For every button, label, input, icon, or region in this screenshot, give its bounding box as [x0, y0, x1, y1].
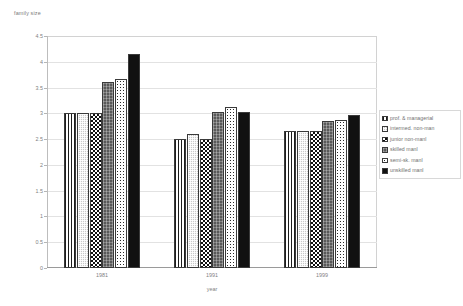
legend-item: junior non-manl — [382, 134, 458, 145]
bar-group — [157, 36, 267, 268]
legend-item-label: unskilled manl — [390, 168, 424, 173]
x-axis-tick-label: 1999 — [316, 272, 328, 278]
bar — [238, 112, 250, 268]
legend-item: prof. & managerial — [382, 113, 458, 124]
y-axis-tick-label: 4 — [40, 59, 43, 65]
bar-group — [267, 36, 377, 268]
x-axis-tick-labels: 198119911999 — [47, 272, 377, 282]
legend: prof. & managerialintermed. non-manjunio… — [379, 110, 461, 179]
bar — [77, 113, 89, 268]
y-axis-tick-label: 0.5 — [36, 239, 44, 245]
legend-item: unskilled manl — [382, 166, 458, 177]
bar — [212, 112, 224, 268]
x-axis-tick-label: 1981 — [96, 272, 108, 278]
legend-swatch-icon — [382, 158, 388, 164]
bar-group — [47, 36, 157, 268]
legend-item: skilled manl — [382, 145, 458, 156]
y-axis-tick-labels: 00.511.522.533.544.5 — [16, 36, 43, 268]
y-axis-tick-label: 1 — [40, 213, 43, 219]
y-axis-tick-label: 3 — [40, 110, 43, 116]
y-axis-tick-mark — [44, 165, 47, 166]
bar — [335, 120, 347, 268]
x-axis-title: year — [207, 286, 218, 292]
legend-item-label: prof. & managerial — [390, 116, 433, 121]
bar-groups — [47, 36, 377, 268]
legend-item-label: semi-sk. manl — [390, 158, 423, 163]
legend-swatch-icon — [382, 147, 388, 153]
legend-swatch-icon — [382, 168, 388, 174]
legend-item-label: junior non-manl — [390, 137, 427, 142]
y-axis-tick-mark — [44, 88, 47, 89]
legend-item-label: skilled manl — [390, 147, 418, 152]
y-axis-tick-label: 2.5 — [36, 136, 44, 142]
y-axis-tick-mark — [44, 62, 47, 63]
y-axis-tick-mark — [44, 242, 47, 243]
y-axis-tick-label: 2 — [40, 162, 43, 168]
y-axis-tick-mark — [44, 268, 47, 269]
y-axis-tick-mark — [44, 139, 47, 140]
y-axis-title: family size — [14, 10, 41, 16]
bar — [348, 115, 360, 268]
bar — [297, 131, 309, 268]
bar — [90, 113, 102, 268]
x-axis-tick-label: 1991 — [206, 272, 218, 278]
bar — [225, 107, 237, 268]
bar — [187, 134, 199, 268]
y-axis-tick-label: 1.5 — [36, 188, 44, 194]
y-axis-tick-label: 3.5 — [36, 85, 44, 91]
legend-swatch-icon — [382, 137, 388, 143]
bar — [322, 121, 334, 268]
plot-area — [47, 36, 377, 268]
bar — [310, 131, 322, 268]
legend-item: semi-sk. manl — [382, 155, 458, 166]
bar — [102, 82, 114, 268]
legend-item: intermed. non-man — [382, 124, 458, 135]
y-axis-tick-label: 0 — [40, 265, 43, 271]
legend-swatch-icon — [382, 126, 388, 132]
y-axis-tick-mark — [44, 216, 47, 217]
legend-item-label: intermed. non-man — [390, 126, 434, 131]
legend-swatch-icon — [382, 116, 388, 122]
bar-chart: family size 00.511.522.533.544.5 1981199… — [0, 0, 463, 306]
bar — [128, 54, 140, 268]
y-axis-tick-mark — [44, 36, 47, 37]
y-axis-tick-mark — [44, 113, 47, 114]
y-axis-tick-mark — [44, 191, 47, 192]
bar — [284, 131, 296, 268]
bar — [115, 79, 127, 268]
bar — [200, 139, 212, 268]
y-axis-tick-label: 4.5 — [36, 33, 44, 39]
bar — [64, 113, 76, 268]
bar — [174, 139, 186, 268]
